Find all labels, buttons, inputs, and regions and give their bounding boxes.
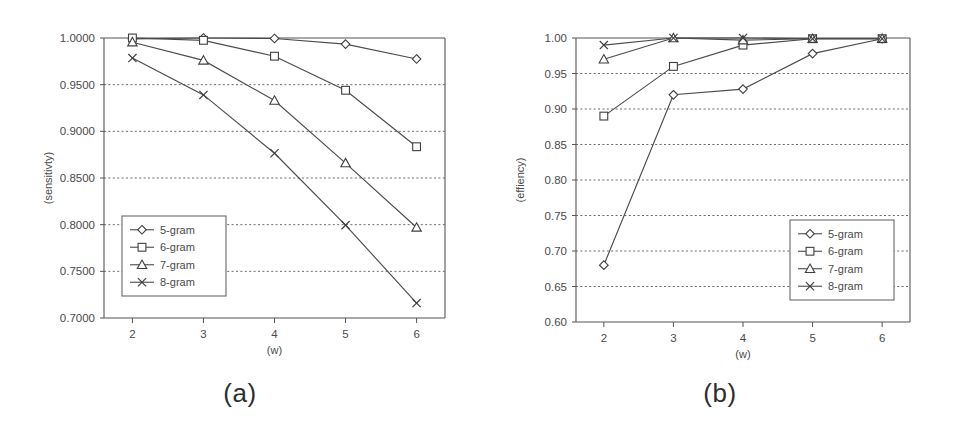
x-tick-label: 4 xyxy=(271,328,278,340)
chart-legend: 5-gram6-gram7-gram8-gram xyxy=(790,220,894,300)
data-point-marker-square xyxy=(342,86,350,94)
triangle-icon xyxy=(270,96,279,104)
data-point-marker-cross xyxy=(128,54,136,62)
x-axis-title: (w) xyxy=(267,344,282,356)
diamond-icon xyxy=(669,91,678,100)
legend-item-label: 7-gram xyxy=(828,263,863,275)
data-point-marker-square xyxy=(200,36,208,44)
legend-item-label: 8-gram xyxy=(828,280,863,292)
y-tick-label: 0.95 xyxy=(545,68,567,80)
x-tick-label: 4 xyxy=(740,332,747,344)
y-axis-title: (sensitivty) xyxy=(42,152,54,205)
data-point-marker-cross xyxy=(270,149,278,157)
y-tick-label: 0.8500 xyxy=(60,172,95,184)
sensitivity-line-chart: 0.70000.75000.80000.85000.90000.95001.00… xyxy=(0,0,480,360)
y-tick-label: 0.65 xyxy=(545,281,567,293)
diamond-icon xyxy=(600,261,609,270)
data-point-marker-diamond xyxy=(270,34,279,43)
square-icon xyxy=(413,143,421,151)
diamond-icon xyxy=(808,49,817,58)
x-tick-label: 6 xyxy=(413,328,419,340)
y-tick-label: 0.9500 xyxy=(60,79,95,91)
x-tick-label: 2 xyxy=(601,332,607,344)
chart-legend: 5-gram6-gram7-gram8-gram xyxy=(122,216,226,296)
data-point-marker-square xyxy=(271,52,279,60)
series-line-7-gram xyxy=(132,42,416,227)
data-point-marker-diamond xyxy=(341,40,350,49)
legend-item-label: 6-gram xyxy=(828,245,863,257)
chart-panel-b: 0.600.650.700.750.800.850.900.951.002345… xyxy=(480,0,960,423)
chart-panel-a: 0.70000.75000.80000.85000.90000.95001.00… xyxy=(0,0,480,423)
y-tick-label: 0.9000 xyxy=(60,125,95,137)
data-point-marker-diamond xyxy=(808,49,817,58)
legend-item-label: 6-gram xyxy=(160,241,195,253)
diamond-icon xyxy=(739,85,748,94)
legend-item-6-gram: 6-gram xyxy=(130,241,195,253)
x-tick-label: 2 xyxy=(129,328,135,340)
legend-item-label: 5-gram xyxy=(828,228,863,240)
data-point-marker-cross xyxy=(412,299,420,307)
square-icon xyxy=(200,36,208,44)
data-point-marker-diamond xyxy=(412,55,421,64)
data-point-marker-diamond xyxy=(669,91,678,100)
diamond-icon xyxy=(341,40,350,49)
square-icon xyxy=(138,243,146,251)
legend-item-6-gram: 6-gram xyxy=(798,245,863,257)
y-axis-title: (effiency) xyxy=(514,157,526,202)
data-point-marker-square xyxy=(138,243,146,251)
panel-caption-b: (b) xyxy=(480,378,960,409)
legend-item-label: 8-gram xyxy=(160,276,195,288)
x-tick-label: 3 xyxy=(670,332,676,344)
square-icon xyxy=(670,63,678,71)
y-tick-label: 1.0000 xyxy=(60,32,95,44)
y-tick-label: 1.00 xyxy=(545,32,567,44)
x-tick-label: 3 xyxy=(200,328,206,340)
panel-caption-a: (a) xyxy=(0,378,480,409)
legend-item-label: 7-gram xyxy=(160,259,195,271)
legend-item-label: 5-gram xyxy=(160,224,195,236)
data-point-marker-cross xyxy=(199,91,207,99)
diamond-icon xyxy=(412,55,421,64)
data-point-marker-triangle xyxy=(270,96,279,104)
y-tick-label: 0.7500 xyxy=(60,265,95,277)
x-tick-label: 5 xyxy=(342,328,348,340)
y-tick-label: 0.75 xyxy=(545,210,567,222)
y-tick-label: 0.8000 xyxy=(60,219,95,231)
y-tick-label: 0.7000 xyxy=(60,312,95,324)
x-axis-title: (w) xyxy=(735,348,750,360)
y-tick-label: 0.85 xyxy=(545,139,567,151)
efficiency-line-chart: 0.600.650.700.750.800.850.900.951.002345… xyxy=(480,0,960,360)
diamond-icon xyxy=(270,34,279,43)
square-icon xyxy=(806,247,814,255)
x-tick-label: 5 xyxy=(809,332,815,344)
data-point-marker-diamond xyxy=(600,261,609,270)
y-tick-label: 0.90 xyxy=(545,103,567,115)
square-icon xyxy=(600,112,608,120)
figure-container: 0.70000.75000.80000.85000.90000.95001.00… xyxy=(0,0,960,423)
data-point-marker-square xyxy=(806,247,814,255)
y-tick-label: 0.70 xyxy=(545,245,567,257)
square-icon xyxy=(271,52,279,60)
data-point-marker-square xyxy=(670,63,678,71)
data-point-marker-diamond xyxy=(739,85,748,94)
x-tick-label: 6 xyxy=(879,332,885,344)
square-icon xyxy=(342,86,350,94)
data-point-marker-square xyxy=(600,112,608,120)
y-tick-label: 0.60 xyxy=(545,316,567,328)
series-line-6-gram xyxy=(604,39,882,116)
data-point-marker-square xyxy=(413,143,421,151)
y-tick-label: 0.80 xyxy=(545,174,567,186)
